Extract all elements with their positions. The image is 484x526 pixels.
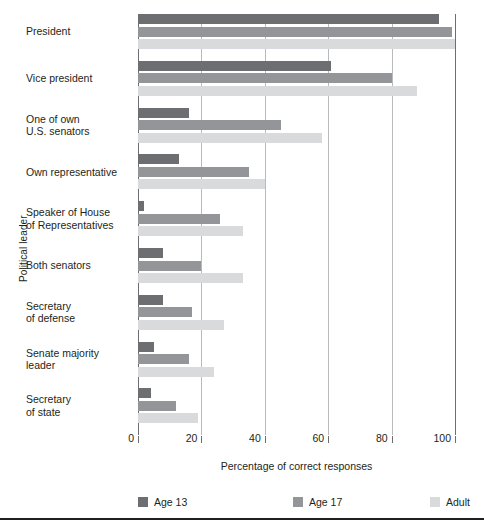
category-label-line: of Representatives [26,219,138,232]
bar-group [138,248,455,286]
x-axis-tick-label: 60 [298,432,324,444]
legend-label: Age 13 [154,496,187,508]
x-axis-tick-label: 100 [425,432,451,444]
bar [138,214,220,224]
bar [138,201,144,211]
category-label-line: Own representative [26,166,138,179]
x-axis-tick-label: 80 [362,432,388,444]
bar [138,261,201,271]
bar [138,133,322,143]
x-axis-tick-label: 20 [171,432,197,444]
chart-legend: Age 13Age 17Adult [138,492,468,508]
bar [138,226,243,236]
bar [138,295,163,305]
bar [138,61,331,71]
bottom-rule [0,518,484,520]
bar-group [138,14,455,52]
legend-item: Age 17 [293,492,342,506]
category-label-line: Secretary [26,393,138,406]
bar [138,73,392,83]
category-label: Vice president [26,72,138,85]
bar [138,167,249,177]
bar [138,342,154,352]
bar-group [138,342,455,380]
bar [138,307,192,317]
category-label-line: Both senators [26,259,138,272]
x-axis-tick-label: 40 [235,432,261,444]
x-axis-tick [392,436,393,443]
category-label: One of ownU.S. senators [26,113,138,138]
bar-group [138,108,455,146]
category-label-line: Senate majority [26,347,138,360]
category-label-group: PresidentVice presidentOne of ownU.S. se… [26,0,138,460]
legend-item: Adult [430,492,470,506]
category-label-line: leader [26,359,138,372]
bar [138,367,214,377]
bar [138,27,452,37]
plot-area [138,14,455,435]
bar [138,388,151,398]
bar [138,14,439,24]
bar [138,354,189,364]
category-label: Speaker of Houseof Representatives [26,206,138,231]
category-label: Secretaryof state [26,393,138,418]
category-label-line: of defense [26,312,138,325]
category-label: Secretaryof defense [26,300,138,325]
bar [138,154,179,164]
x-axis-tick [328,436,329,443]
bar [138,179,265,189]
category-label: Both senators [26,259,138,272]
bar [138,273,243,283]
plot-right-border [455,14,456,435]
bar-chart-figure: Political leader PresidentVice president… [0,0,484,526]
bar-group [138,388,455,426]
category-label-line: of state [26,406,138,419]
category-label-line: Speaker of House [26,206,138,219]
x-axis-tick [455,436,456,443]
y-axis-title: Political leader [6,76,17,186]
bar [138,86,417,96]
bar-group [138,61,455,99]
bar [138,108,189,118]
category-label-line: One of own [26,113,138,126]
category-label-line: President [26,25,138,38]
bar [138,248,163,258]
bar-group [138,295,455,333]
legend-label: Age 17 [309,496,342,508]
category-label-line: Secretary [26,300,138,313]
legend-swatch [430,497,440,507]
bar [138,120,281,130]
bar [138,39,455,49]
bar [138,401,176,411]
bar-group [138,154,455,192]
category-label: Own representative [26,166,138,179]
x-axis-title: Percentage of correct responses [138,460,455,472]
legend-swatch [293,497,303,507]
category-label: Senate majorityleader [26,347,138,372]
bar [138,413,198,423]
x-axis-tick [138,436,139,443]
category-label: President [26,25,138,38]
x-axis-tick [265,436,266,443]
category-label-line: U.S. senators [26,125,138,138]
category-label-line: Vice president [26,72,138,85]
legend-label: Adult [446,496,470,508]
x-axis-tick-label: 0 [108,432,134,444]
bar [138,320,224,330]
x-axis-tick [201,436,202,443]
legend-swatch [138,497,148,507]
legend-item: Age 13 [138,492,187,506]
bar-group [138,201,455,239]
